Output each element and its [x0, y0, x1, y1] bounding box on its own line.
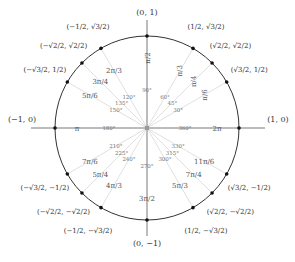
point-315 — [210, 191, 214, 195]
point-330 — [225, 172, 229, 176]
degree-label-0: 360° — [178, 125, 191, 131]
degree-label-270: 270° — [140, 163, 153, 169]
point-45 — [210, 61, 214, 65]
degree-label-135: 135° — [115, 100, 128, 106]
axis-label-right: (1, 0) — [267, 115, 289, 124]
degree-label-210: 210° — [109, 143, 122, 149]
radian-label-300: 5π/3 — [172, 182, 188, 190]
coordinate-label-60: (1/2, √3/2) — [188, 23, 225, 31]
degree-label-330: 330° — [172, 143, 185, 149]
radian-label-270: 3π/2 — [139, 195, 155, 203]
degree-label-45: 45° — [168, 100, 178, 106]
point-210 — [66, 172, 70, 176]
point-225 — [80, 191, 84, 195]
degree-label-300: 300° — [158, 156, 171, 162]
radian-label-60: π/3 — [177, 65, 185, 76]
radian-label-315: 7π/4 — [186, 171, 202, 179]
degree-label-315: 315° — [166, 150, 179, 156]
degree-label-240: 240° — [122, 156, 135, 162]
coordinate-label-300: (1/2, −√3/2) — [185, 227, 228, 235]
degree-label-30: 30° — [173, 107, 183, 113]
radian-label-120: 2π/3 — [106, 67, 122, 75]
coordinate-label-225: (−√2/2, −√2/2) — [37, 208, 90, 216]
axis-label-top: (0, 1) — [136, 8, 158, 17]
point-120 — [99, 47, 103, 51]
coordinate-label-315: (√2/2, −√2/2) — [207, 208, 254, 216]
spoke-330 — [147, 128, 227, 174]
axis-label-left: (−1, 0) — [8, 115, 36, 124]
spoke-210 — [67, 128, 147, 174]
point-240 — [99, 206, 103, 210]
unit-circle-diagram: 360°30°45°60°90°120°135°150°180°210°225°… — [0, 0, 295, 262]
radian-label-150: 5π/6 — [82, 92, 98, 100]
coordinate-label-120: (−1/2, √3/2) — [67, 23, 110, 31]
point-60 — [191, 47, 195, 51]
point-150 — [66, 80, 70, 84]
axis-label-bottom: (0, −1) — [133, 239, 161, 248]
point-90 — [145, 34, 149, 38]
degree-label-180: 180° — [102, 125, 115, 131]
radian-label-180: π — [75, 125, 80, 133]
coordinate-label-210: (−√3/2, −1/2) — [20, 184, 69, 192]
radian-label-210: 7π/6 — [82, 158, 98, 166]
point-180 — [53, 126, 57, 130]
spoke-120 — [101, 48, 147, 128]
coordinate-label-45: (√2/2, √2/2) — [210, 42, 252, 50]
spoke-60 — [147, 48, 193, 128]
radian-label-0: 2π — [212, 125, 221, 133]
spoke-30 — [147, 82, 227, 128]
coordinate-label-150: (−√3/2, 1/2) — [23, 66, 66, 74]
origin-marker — [145, 126, 149, 130]
radian-label-135: 3π/4 — [92, 78, 108, 86]
radian-label-30: π/6 — [201, 89, 209, 101]
spoke-150 — [67, 82, 147, 128]
coordinate-label-30: (√3/2, 1/2) — [231, 66, 268, 74]
radian-label-225: 5π/4 — [92, 171, 108, 179]
point-300 — [191, 206, 195, 210]
point-135 — [80, 61, 84, 65]
coordinate-label-240: (−1/2, −√3/2) — [64, 227, 113, 235]
coordinate-label-330: (√3/2, −1/2) — [228, 184, 271, 192]
radian-label-330: 11π/6 — [194, 158, 215, 166]
degree-label-90: 90° — [142, 87, 152, 93]
radian-label-240: 4π/3 — [106, 182, 122, 190]
point-0 — [237, 126, 241, 130]
coordinate-label-135: (−√2/2, √2/2) — [40, 42, 87, 50]
radian-label-90: π/2 — [144, 52, 152, 63]
point-270 — [145, 218, 149, 222]
degree-label-150: 150° — [109, 107, 122, 113]
degree-label-60: 60° — [160, 94, 170, 100]
unit-circle-svg: 360°30°45°60°90°120°135°150°180°210°225°… — [0, 0, 295, 262]
point-30 — [225, 80, 229, 84]
radian-label-45: π/4 — [190, 75, 198, 87]
